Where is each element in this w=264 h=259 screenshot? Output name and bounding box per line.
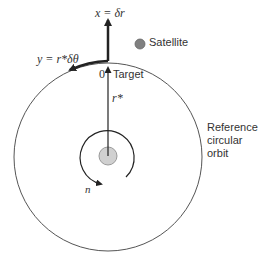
x-axis-label: x = δr [94, 6, 125, 20]
y-axis-label: y = r*δθ [36, 52, 79, 66]
orbit-diagram: x = δr y = r*δθ 0 Target Satellite r* n … [0, 0, 264, 259]
target-label: Target [113, 68, 144, 80]
mean-motion-label: n [85, 183, 91, 195]
orbit-label-line2: circular [207, 134, 243, 146]
orbit-label-line3: orbit [207, 147, 228, 159]
radius-label: r* [112, 91, 123, 105]
satellite-label: Satellite [149, 36, 188, 48]
satellite-dot [135, 39, 145, 49]
orbit-label-line1: Reference [207, 121, 258, 133]
origin-label: 0 [99, 67, 105, 81]
